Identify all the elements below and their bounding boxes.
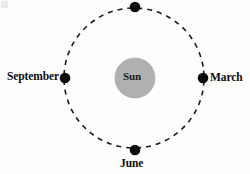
orbit-label-september: September bbox=[7, 71, 59, 83]
orbit-label-march: March bbox=[210, 72, 243, 84]
orbit-marker-june bbox=[130, 145, 141, 156]
orbit-marker-march bbox=[198, 73, 209, 84]
orbit-graphic bbox=[0, 0, 250, 174]
orbit-diagram: Sun September March June bbox=[0, 0, 250, 174]
sun-label: Sun bbox=[123, 71, 141, 82]
orbit-marker-september bbox=[60, 73, 71, 84]
orbit-label-june: June bbox=[120, 158, 143, 170]
orbit-marker-top bbox=[130, 2, 141, 13]
